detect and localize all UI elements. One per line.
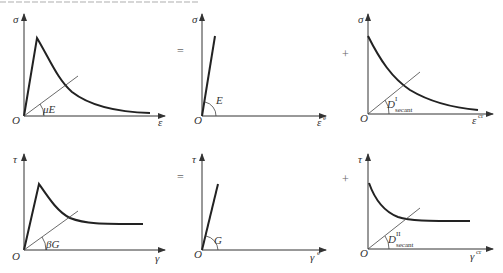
y-label: σ — [13, 13, 19, 25]
panel-sigma-epsilon-total: σ ε O μE — [12, 13, 165, 128]
x-label-sup: cr — [478, 112, 484, 120]
x-label: γ — [310, 251, 315, 263]
origin-label: O — [12, 250, 20, 262]
origin-label: O — [194, 248, 202, 260]
x-label-sup: e — [317, 249, 320, 257]
decomposition-diagram: σ ε O μE = σ ε e O E + σ ε cr O D I seca… — [0, 0, 503, 273]
plus-operator: + — [342, 47, 349, 61]
y-label: τ — [358, 153, 363, 165]
softening-curve — [24, 184, 143, 250]
panel-tau-gamma-elastic: τ γ e O G — [192, 153, 326, 263]
secant-label: D — [387, 233, 396, 245]
x-label: ε — [317, 116, 322, 128]
panel-tau-gamma-total: τ γ O βG — [12, 153, 165, 264]
secant-sub: secant — [396, 241, 414, 249]
equals-operator: = — [177, 170, 184, 184]
secant-label: μE — [42, 103, 56, 115]
x-label: ε — [158, 116, 163, 128]
x-label: ε — [472, 114, 477, 126]
origin-label: O — [12, 114, 20, 126]
x-label: γ — [470, 250, 475, 262]
origin-label: O — [194, 114, 202, 126]
crack-curve — [369, 183, 470, 221]
x-label-sup: cr — [476, 248, 482, 256]
panel-sigma-epsilon-crack: σ ε cr O D I secant — [358, 13, 493, 126]
panel-sigma-epsilon-elastic: σ ε e O E — [192, 13, 326, 128]
y-label: σ — [192, 13, 198, 25]
y-label: τ — [13, 153, 18, 165]
plus-operator: + — [342, 172, 349, 186]
angle-arc — [205, 102, 216, 116]
panel-tau-gamma-crack: τ γ cr O D II secant — [358, 153, 493, 262]
equals-operator: = — [177, 44, 184, 58]
elastic-line — [202, 36, 215, 116]
crack-curve — [368, 36, 478, 110]
x-label: γ — [155, 252, 160, 264]
y-label: σ — [358, 13, 364, 25]
secant-sup: II — [396, 230, 401, 238]
secant-label: D — [386, 98, 395, 110]
origin-label: O — [360, 112, 368, 124]
slope-label: E — [215, 94, 223, 106]
slope-label: G — [214, 234, 222, 246]
origin-label: O — [360, 247, 368, 259]
secant-label: βG — [45, 238, 59, 250]
x-label-sup: e — [323, 114, 326, 122]
secant-sup: I — [395, 95, 398, 103]
secant-sub: secant — [395, 106, 413, 114]
y-label: τ — [192, 153, 197, 165]
